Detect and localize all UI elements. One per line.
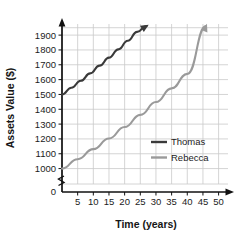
- y-axis-tick-label: 1200: [35, 133, 56, 144]
- y-axis-tick-label: 1400: [35, 104, 56, 115]
- x-axis-tick-label: 10: [88, 196, 99, 207]
- x-axis-tick-label: 50: [213, 196, 224, 207]
- x-axis-tick-label: 25: [135, 196, 146, 207]
- x-axis-tick-label: 45: [198, 196, 209, 207]
- x-axis-tick-label: 40: [182, 196, 193, 207]
- x-axis-title: Time (years): [115, 218, 177, 230]
- x-axis-tick-label: 30: [151, 196, 162, 207]
- assets-value-line-chart: 0100011001200130014001500160017001800190…: [0, 0, 239, 235]
- y-axis-tick-label: 0: [51, 186, 56, 197]
- x-axis-tick-label: 15: [104, 196, 115, 207]
- y-axis-tick-label: 1700: [35, 59, 56, 70]
- y-axis-tick-label: 1100: [36, 148, 56, 159]
- legend-label-thomas: Thomas: [171, 136, 206, 147]
- x-axis-tick-label: 35: [166, 196, 177, 207]
- y-axis-tick-label: 1300: [35, 119, 56, 130]
- y-axis-tick-labels: 0100011001200130014001500160017001800190…: [35, 30, 56, 198]
- x-axis-tick-label: 20: [119, 196, 130, 207]
- y-axis-tick-label: 1900: [35, 30, 56, 41]
- y-axis-tick-label: 1500: [35, 89, 56, 100]
- y-axis-tick-label: 1600: [35, 74, 56, 85]
- chart-container: 0100011001200130014001500160017001800190…: [0, 0, 239, 235]
- y-axis-title: Assets Value ($): [4, 68, 16, 149]
- legend-label-rebecca: Rebecca: [171, 152, 209, 163]
- x-axis-tick-label: 5: [75, 196, 80, 207]
- y-axis-tick-label: 1000: [35, 163, 56, 174]
- y-axis-tick-label: 1800: [35, 44, 56, 55]
